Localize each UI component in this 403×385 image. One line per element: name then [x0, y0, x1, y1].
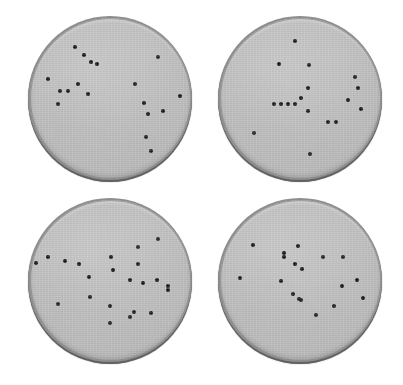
colony-dot — [332, 304, 336, 308]
colony-dot — [252, 131, 256, 135]
colony-dot — [133, 82, 137, 86]
colony-dot — [321, 255, 325, 259]
colony-dot — [299, 96, 303, 100]
colony-dot — [82, 53, 86, 57]
colony-dot — [108, 304, 112, 308]
colony-dot — [293, 39, 297, 43]
colony-dot — [282, 251, 286, 255]
plate-top-right — [218, 16, 382, 180]
agar-surface — [30, 18, 191, 179]
colony-dot — [161, 109, 165, 113]
plate-bottom-right — [218, 198, 382, 362]
colony-dot — [299, 298, 303, 302]
colony-dot — [146, 112, 150, 116]
colony-dot — [308, 152, 312, 156]
colony-dot — [340, 284, 344, 288]
colony-dot — [136, 262, 140, 266]
colony-dot — [58, 89, 62, 93]
colony-dot — [279, 102, 283, 106]
colony-dot — [355, 278, 359, 282]
colony-dot — [63, 259, 67, 263]
colony-dot — [326, 120, 330, 124]
colony-dot — [77, 262, 81, 266]
plate-bottom-left — [28, 198, 192, 362]
agar-surface — [220, 200, 381, 361]
colony-dot — [95, 62, 99, 66]
colony-dot — [300, 267, 304, 271]
colony-dot — [56, 102, 60, 106]
colony-dot — [144, 135, 148, 139]
colony-dot — [361, 296, 365, 300]
colony-dot — [306, 86, 310, 90]
colony-dot — [307, 63, 311, 67]
colony-dot — [293, 102, 297, 106]
colony-dot — [272, 102, 276, 106]
colony-dot — [66, 89, 70, 93]
colony-dot — [166, 288, 170, 292]
plate-top-left — [28, 16, 192, 180]
colony-dot — [156, 237, 160, 241]
colony-dot — [149, 149, 153, 153]
colony-dot — [353, 75, 357, 79]
colony-dot — [46, 255, 50, 259]
colony-dot — [346, 98, 350, 102]
colony-dot — [108, 321, 112, 325]
petri-dish-figure — [0, 0, 403, 385]
colony-dot — [76, 82, 80, 86]
colony-dot — [291, 292, 295, 296]
colony-dot — [277, 62, 281, 66]
colony-dot — [286, 102, 290, 106]
colony-dot — [359, 107, 363, 111]
colony-dot — [356, 86, 360, 90]
colony-dot — [128, 278, 132, 282]
colony-dot — [87, 275, 91, 279]
colony-dot — [109, 255, 113, 259]
colony-dot — [296, 244, 300, 248]
colony-dot — [46, 77, 50, 81]
colony-dot — [341, 255, 345, 259]
colony-dot — [178, 94, 182, 98]
colony-dot — [314, 313, 318, 317]
agar-surface — [220, 18, 381, 179]
colony-dot — [128, 315, 132, 319]
colony-dot — [86, 92, 90, 96]
colony-dot — [156, 55, 160, 59]
colony-dot — [155, 278, 159, 282]
colony-dot — [279, 279, 283, 283]
colony-dot — [56, 302, 60, 306]
colony-dot — [142, 101, 146, 105]
colony-dot — [306, 109, 310, 113]
colony-dot — [141, 281, 145, 285]
colony-dot — [136, 245, 140, 249]
colony-dot — [238, 276, 242, 280]
colony-dot — [111, 268, 115, 272]
colony-dot — [132, 310, 136, 314]
colony-dot — [334, 120, 338, 124]
agar-surface — [30, 200, 191, 361]
colony-dot — [149, 311, 153, 315]
colony-dot — [73, 45, 77, 49]
colony-dot — [34, 261, 38, 265]
colony-dot — [251, 243, 255, 247]
colony-dot — [88, 295, 92, 299]
colony-dot — [282, 255, 286, 259]
colony-dot — [293, 262, 297, 266]
colony-dot — [89, 60, 93, 64]
